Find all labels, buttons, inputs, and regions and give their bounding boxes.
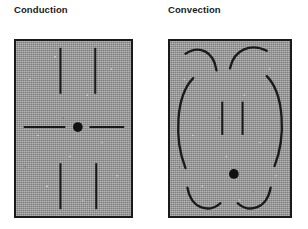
curve-right-side-up [267,76,282,166]
heat-transfer-diagram: Conduction Convection [0,0,308,229]
curve-top-left-down [185,50,216,71]
curve-bottom-left-up [187,188,220,209]
conduction-flow-arrows [16,41,131,216]
convection-flow-arrows [170,41,290,216]
conduction-panel-box [14,39,133,218]
heat-source-dot [73,122,83,132]
curve-bottom-right-up [238,188,271,209]
curve-left-side-up [178,78,193,168]
convection-panel-box [168,39,292,218]
panel-title-conduction: Conduction [14,4,68,15]
curve-top-right-down [230,47,267,68]
heat-source-dot [229,169,239,179]
panel-title-convection: Convection [168,4,221,15]
